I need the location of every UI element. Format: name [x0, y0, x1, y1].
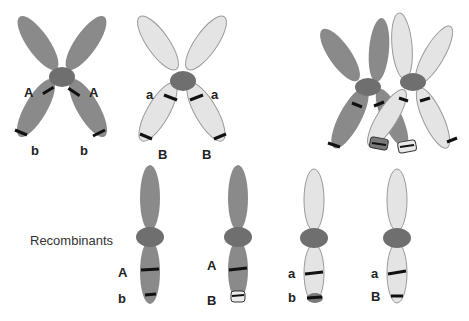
recombinant-1: A b — [118, 165, 164, 306]
recombinant-3-lower: b — [288, 290, 296, 305]
chromosome-diagram: A A b b a a B B — [0, 0, 469, 321]
label-a-right: a — [211, 87, 219, 102]
parent-chromosome-light: a a B B — [131, 10, 234, 162]
recombinant-2-lower: B — [207, 293, 216, 308]
recombinant-3: a b — [288, 169, 328, 305]
label-b-right: b — [80, 143, 88, 158]
recombinant-4-upper: a — [371, 266, 379, 281]
crossover-pair — [313, 12, 459, 153]
recombinant-1-upper: A — [118, 265, 128, 280]
label-B-left: B — [158, 147, 167, 162]
recombinant-3-upper: a — [288, 266, 296, 281]
label-a-left: a — [146, 87, 154, 102]
recombinant-2: A B — [207, 165, 252, 308]
recombinant-4-lower: B — [371, 289, 380, 304]
recombinant-1-lower: b — [118, 291, 126, 306]
label-B-right: B — [202, 147, 211, 162]
recombinant-2-upper: A — [207, 258, 217, 273]
label-b-left: b — [31, 143, 39, 158]
recombinants-title: Recombinants — [30, 233, 114, 248]
label-A-left: A — [24, 85, 34, 100]
recombinant-4: a B — [371, 169, 411, 304]
label-A-right: A — [89, 85, 99, 100]
parent-chromosome-dark: A A b b — [10, 10, 114, 158]
